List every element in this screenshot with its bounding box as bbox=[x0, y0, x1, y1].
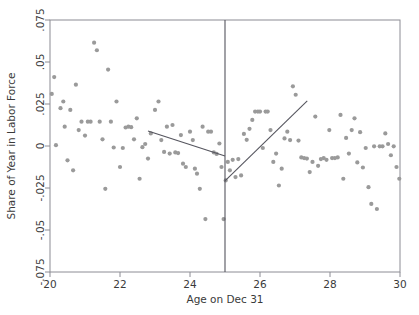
data-point bbox=[181, 162, 185, 166]
data-point bbox=[58, 106, 62, 110]
data-point bbox=[282, 136, 286, 140]
data-point bbox=[168, 151, 172, 155]
data-point bbox=[266, 109, 270, 113]
data-point bbox=[98, 120, 102, 124]
data-point bbox=[50, 92, 54, 96]
data-point bbox=[74, 83, 78, 87]
data-point bbox=[219, 165, 223, 169]
data-point bbox=[95, 48, 99, 52]
data-point bbox=[68, 108, 72, 112]
x-tick-label: 26 bbox=[253, 278, 267, 290]
y-tick-label: 0 bbox=[34, 143, 46, 150]
data-point bbox=[231, 158, 235, 162]
data-point bbox=[386, 142, 390, 146]
data-point bbox=[380, 144, 384, 148]
data-point bbox=[277, 183, 281, 187]
data-point bbox=[61, 99, 65, 103]
data-point bbox=[176, 151, 180, 155]
data-point bbox=[198, 187, 202, 191]
data-point bbox=[188, 130, 192, 134]
x-axis-tick-labels: 202224262830 bbox=[43, 278, 406, 290]
data-point bbox=[112, 145, 116, 149]
data-point bbox=[268, 128, 272, 132]
data-point bbox=[350, 128, 354, 132]
y-tick-label: .025 bbox=[34, 92, 46, 115]
data-point bbox=[217, 141, 221, 145]
y-tick-label: .075 bbox=[34, 8, 46, 31]
data-point bbox=[364, 146, 368, 150]
data-point bbox=[355, 160, 359, 164]
data-point bbox=[308, 170, 312, 174]
data-point bbox=[291, 84, 295, 88]
data-point bbox=[203, 217, 207, 221]
y-axis-title: Share of Year in Labor Force bbox=[5, 72, 17, 219]
data-point bbox=[296, 139, 300, 143]
data-point bbox=[394, 165, 398, 169]
data-point bbox=[327, 128, 331, 132]
data-point bbox=[324, 158, 328, 162]
data-point bbox=[313, 115, 317, 119]
data-point bbox=[162, 150, 166, 154]
data-point bbox=[242, 132, 246, 136]
data-point bbox=[159, 138, 163, 142]
data-point bbox=[170, 123, 174, 127]
data-point bbox=[103, 187, 107, 191]
data-point bbox=[121, 146, 125, 150]
data-point bbox=[271, 160, 275, 164]
y-tick-label: .05 bbox=[34, 54, 46, 71]
data-point bbox=[201, 125, 205, 129]
data-point bbox=[165, 125, 169, 129]
data-point bbox=[372, 144, 376, 148]
data-point bbox=[305, 157, 309, 161]
data-point bbox=[261, 146, 265, 150]
data-point bbox=[341, 177, 345, 181]
data-point bbox=[146, 157, 150, 161]
data-point bbox=[143, 142, 147, 146]
data-point bbox=[63, 125, 67, 129]
data-point bbox=[135, 116, 139, 120]
data-point bbox=[132, 137, 136, 141]
data-point bbox=[366, 185, 370, 189]
data-point bbox=[258, 109, 262, 113]
data-point bbox=[336, 155, 340, 159]
data-point bbox=[338, 113, 342, 117]
data-point bbox=[106, 67, 110, 71]
data-point bbox=[369, 202, 373, 206]
data-point bbox=[228, 168, 232, 172]
data-point bbox=[191, 138, 195, 142]
data-point bbox=[310, 160, 314, 164]
data-point bbox=[233, 175, 237, 179]
data-point bbox=[209, 130, 213, 134]
data-point bbox=[294, 93, 298, 97]
data-point bbox=[179, 133, 183, 137]
data-point bbox=[109, 120, 113, 124]
data-point bbox=[250, 118, 254, 122]
data-point bbox=[52, 75, 56, 79]
data-point bbox=[383, 131, 387, 135]
data-point bbox=[138, 177, 142, 181]
data-point bbox=[92, 41, 96, 45]
y-tick-label: -.05 bbox=[34, 220, 46, 241]
y-tick-label: -.025 bbox=[34, 174, 46, 201]
data-point bbox=[397, 177, 401, 181]
data-point bbox=[316, 164, 320, 168]
data-point bbox=[153, 108, 157, 112]
data-point bbox=[347, 151, 351, 155]
regression-discontinuity-figure: .075.05.0250-.025-.05-.075 202224262830 … bbox=[0, 0, 419, 315]
x-tick-label: 24 bbox=[183, 278, 197, 290]
data-point bbox=[65, 158, 69, 162]
y-axis-tick-labels: .075.05.0250-.025-.05-.075 bbox=[34, 8, 46, 285]
data-point bbox=[274, 151, 278, 155]
data-point bbox=[129, 125, 133, 129]
data-point bbox=[344, 136, 348, 140]
data-point bbox=[285, 130, 289, 134]
data-point bbox=[358, 130, 362, 134]
data-point bbox=[100, 137, 104, 141]
data-point bbox=[392, 144, 396, 148]
data-point bbox=[247, 127, 251, 131]
data-point bbox=[236, 157, 240, 161]
data-point bbox=[184, 165, 188, 169]
data-point bbox=[193, 167, 197, 171]
data-point bbox=[54, 143, 58, 147]
data-point bbox=[280, 167, 284, 171]
